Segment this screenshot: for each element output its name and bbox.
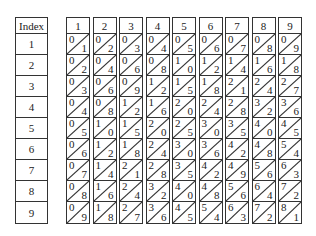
units-digit: 9	[294, 43, 300, 54]
tens-digit: 1	[175, 76, 181, 87]
bone-cell: 01	[67, 34, 89, 55]
bone-cell: 03	[67, 76, 89, 97]
tens-digit: 7	[255, 202, 261, 213]
units-digit: 5	[188, 43, 194, 54]
tens-digit: 5	[228, 181, 234, 192]
tens-digit: 1	[202, 76, 208, 87]
units-digit: 4	[241, 64, 247, 75]
bone-cell: 08	[67, 181, 89, 202]
bone-cell: 08	[147, 55, 169, 76]
units-digit: 8	[135, 148, 141, 159]
bone-column-7: 7071421283542495663	[225, 17, 249, 224]
tens-digit: 2	[255, 76, 261, 87]
units-digit: 5	[188, 169, 194, 180]
tens-digit: 4	[175, 202, 181, 213]
tens-digit: 0	[175, 34, 181, 45]
tens-digit: 3	[202, 139, 208, 150]
tens-digit: 2	[122, 181, 128, 192]
bone-column-1: 1010203040506070809	[66, 17, 90, 224]
bone-cell: 32	[147, 181, 169, 202]
tens-digit: 1	[96, 160, 102, 171]
bone-cell: 18	[94, 202, 116, 223]
index-row: 7	[16, 160, 47, 181]
units-digit: 2	[161, 190, 167, 201]
units-digit: 3	[241, 212, 247, 223]
units-digit: 0	[214, 127, 220, 138]
bone-cell: 40	[173, 181, 195, 202]
index-row: 8	[16, 181, 47, 202]
units-digit: 2	[267, 106, 273, 117]
units-digit: 0	[267, 127, 273, 138]
tens-digit: 0	[69, 34, 75, 45]
tens-digit: 3	[255, 97, 261, 108]
tens-digit: 2	[228, 97, 234, 108]
units-digit: 5	[188, 85, 194, 96]
index-row: 9	[16, 202, 47, 223]
units-digit: 8	[214, 85, 220, 96]
tens-digit: 2	[149, 160, 155, 171]
units-digit: 9	[82, 212, 88, 223]
bone-cell: 56	[226, 181, 248, 202]
units-digit: 2	[108, 148, 114, 159]
tens-digit: 0	[69, 139, 75, 150]
bone-cell: 56	[253, 160, 275, 181]
bone-cell: 36	[200, 139, 222, 160]
units-digit: 0	[188, 148, 194, 159]
units-digit: 0	[188, 106, 194, 117]
tens-digit: 2	[122, 160, 128, 171]
units-digit: 5	[241, 127, 247, 138]
units-digit: 1	[135, 169, 141, 180]
units-digit: 2	[214, 169, 220, 180]
bone-cell: 09	[67, 202, 89, 223]
units-digit: 2	[135, 106, 141, 117]
bone-cell: 48	[253, 139, 275, 160]
bone-header: 5	[173, 18, 195, 34]
tens-digit: 0	[69, 160, 75, 171]
tens-digit: 2	[281, 76, 287, 87]
bone-cell: 06	[200, 34, 222, 55]
bone-cell: 28	[226, 97, 248, 118]
tens-digit: 1	[202, 55, 208, 66]
bone-cell: 06	[120, 55, 142, 76]
tens-digit: 0	[96, 97, 102, 108]
units-digit: 6	[161, 106, 167, 117]
units-digit: 4	[82, 106, 88, 117]
tens-digit: 1	[122, 118, 128, 129]
bone-cell: 35	[226, 118, 248, 139]
bone-cell: 35	[173, 160, 195, 181]
tens-digit: 8	[281, 202, 287, 213]
units-digit: 3	[294, 169, 300, 180]
bone-column-6: 6061218243036424854	[199, 17, 223, 224]
tens-digit: 4	[228, 139, 234, 150]
tens-digit: 1	[149, 97, 155, 108]
units-digit: 4	[214, 212, 220, 223]
units-digit: 5	[294, 127, 300, 138]
tens-digit: 6	[228, 202, 234, 213]
bone-cell: 16	[94, 181, 116, 202]
units-digit: 8	[294, 64, 300, 75]
tens-digit: 6	[255, 181, 261, 192]
units-digit: 4	[267, 190, 273, 201]
bone-cell: 42	[226, 139, 248, 160]
tens-digit: 1	[96, 202, 102, 213]
bone-cell: 10	[173, 55, 195, 76]
index-row: 5	[16, 118, 47, 139]
bone-header: 6	[200, 18, 222, 34]
units-digit: 2	[108, 43, 114, 54]
bone-cell: 12	[120, 97, 142, 118]
tens-digit: 0	[149, 34, 155, 45]
units-digit: 0	[188, 64, 194, 75]
units-digit: 7	[82, 169, 88, 180]
tens-digit: 0	[122, 34, 128, 45]
bone-cell: 81	[279, 202, 301, 223]
bone-header: 2	[94, 18, 116, 34]
bone-cell: 20	[147, 118, 169, 139]
units-digit: 2	[161, 85, 167, 96]
units-digit: 8	[214, 190, 220, 201]
tens-digit: 0	[96, 34, 102, 45]
bone-cell: 06	[94, 76, 116, 97]
bone-cell: 24	[200, 97, 222, 118]
tens-digit: 0	[228, 34, 234, 45]
units-digit: 8	[108, 212, 114, 223]
units-digit: 6	[294, 106, 300, 117]
